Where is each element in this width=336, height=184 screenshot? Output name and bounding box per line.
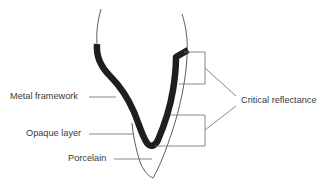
outer-contour xyxy=(97,9,101,44)
label-porcelain: Porcelain xyxy=(68,154,106,163)
leader-critical-lower xyxy=(205,106,236,130)
bracket-upper xyxy=(179,52,205,84)
metal-framework-band xyxy=(97,44,188,146)
label-critical-reflectance: Critical reflectance xyxy=(241,96,317,105)
label-opaque-layer: Opaque layer xyxy=(26,129,81,138)
label-metal-framework: Metal framework xyxy=(10,92,78,101)
crown-cross-section-diagram: Metal framework Opaque layer Porcelain C… xyxy=(0,0,336,184)
leader-critical-upper xyxy=(205,68,236,96)
